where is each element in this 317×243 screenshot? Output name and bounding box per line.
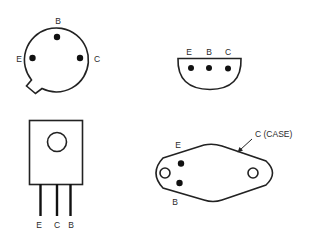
- to92-label-b: B: [206, 47, 212, 57]
- to18-label-e: E: [16, 54, 22, 64]
- to18-label-b: B: [55, 16, 61, 26]
- to92-package: E B C: [178, 47, 241, 90]
- to92-label-e: E: [186, 47, 192, 57]
- to18-pin-b: [54, 34, 60, 40]
- to92-pin-b: [206, 65, 212, 71]
- to220-package: E C B: [30, 121, 83, 231]
- to220-label-b: B: [68, 220, 74, 230]
- to3-case-label: C (CASE): [255, 129, 292, 139]
- to18-pin-c: [77, 55, 83, 61]
- to3-mounting-hole-left: [160, 168, 170, 178]
- to220-body: [30, 121, 83, 185]
- to3-case-leader-line: [240, 139, 252, 150]
- to220-mounting-hole: [48, 133, 67, 152]
- to92-pin-c: [225, 66, 231, 72]
- to92-label-c: C: [225, 47, 231, 57]
- to18-label-c: C: [94, 54, 100, 64]
- to3-pin-e: [178, 160, 184, 166]
- to3-label-e: E: [175, 140, 181, 150]
- to3-outline: [156, 144, 273, 201]
- to3-pin-b: [176, 180, 182, 186]
- to18-package: B E C: [16, 16, 100, 94]
- transistor-pinout-diagram: B E C E B C E C B E B C (CASE): [0, 0, 317, 243]
- to92-pin-e: [188, 65, 194, 71]
- to220-label-c: C: [54, 220, 60, 230]
- to220-label-e: E: [36, 220, 42, 230]
- to3-label-b: B: [172, 197, 178, 207]
- to3-mounting-hole-right: [248, 168, 258, 178]
- to3-package: E B C (CASE): [156, 129, 292, 207]
- to92-outline: [178, 59, 241, 90]
- to18-pin-e: [29, 55, 35, 61]
